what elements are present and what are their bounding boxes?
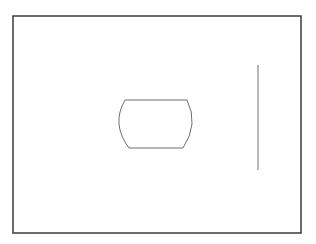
diagram-canvas [0,0,316,244]
barrel-shape [119,100,192,148]
